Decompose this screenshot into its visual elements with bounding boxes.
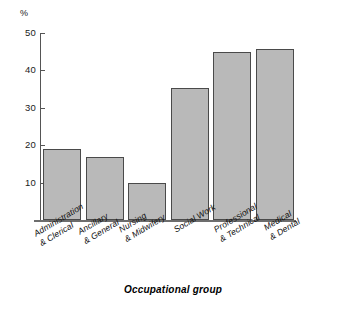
plot-area [41,33,295,220]
y-tick-label-50: 50 [12,28,36,38]
y-tick-label-20: 20 [12,140,36,150]
bar-professional-technical [213,52,251,220]
x-axis-title: Occupational group [0,284,346,295]
bar-medical-dental [256,49,294,220]
bar-social-work [171,88,209,220]
y-tick-label-10: 10 [12,178,36,188]
y-tick-label-30: 30 [12,103,36,113]
bar-chart: % 50 40 30 20 10 Administration & Cleric… [0,0,346,309]
y-tick-label-40: 40 [12,65,36,75]
y-axis-unit-label: % [20,8,28,18]
